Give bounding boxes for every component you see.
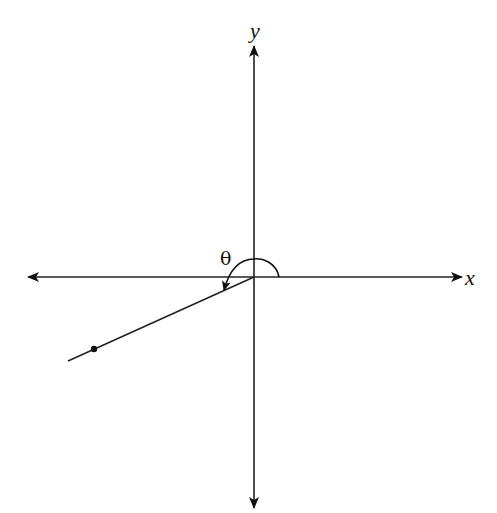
angle-arc xyxy=(224,259,279,290)
coordinate-diagram: y x θ xyxy=(0,0,497,513)
theta-label: θ xyxy=(220,247,231,269)
x-axis-label: x xyxy=(464,265,475,290)
terminal-point xyxy=(91,346,97,352)
y-axis-label: y xyxy=(248,18,260,43)
